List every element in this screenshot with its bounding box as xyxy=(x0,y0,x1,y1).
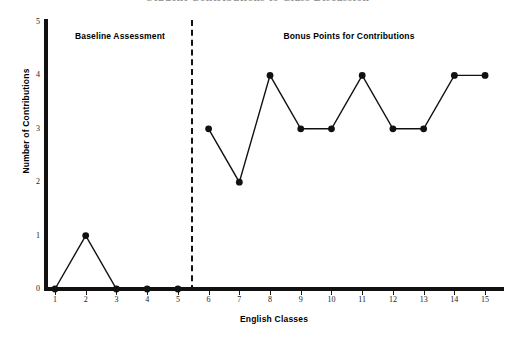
data-point xyxy=(174,286,181,293)
plot-area: Number of Contributions English Classes … xyxy=(0,0,516,337)
data-point xyxy=(52,286,59,293)
data-point xyxy=(113,286,120,293)
data-point xyxy=(236,179,243,186)
data-point xyxy=(328,125,335,132)
data-point xyxy=(205,125,212,132)
data-point xyxy=(420,125,427,132)
data-point xyxy=(482,72,489,79)
data-point xyxy=(390,125,397,132)
chart-page: Student Contributions to Class Discussio… xyxy=(0,0,516,337)
data-point xyxy=(267,72,274,79)
data-point xyxy=(451,72,458,79)
data-point xyxy=(359,72,366,79)
series-line xyxy=(55,236,178,289)
series-line xyxy=(209,75,485,182)
data-point xyxy=(82,232,89,239)
data-point xyxy=(297,125,304,132)
data-series-layer xyxy=(0,0,516,337)
data-point xyxy=(144,286,151,293)
